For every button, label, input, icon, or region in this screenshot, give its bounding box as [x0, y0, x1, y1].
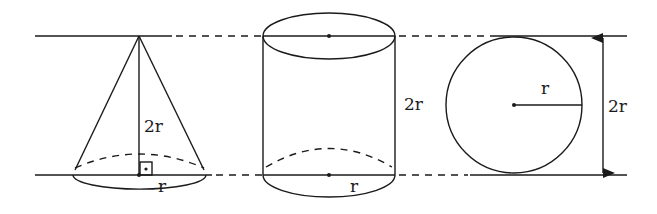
- cylinder-radius-label: r: [350, 176, 359, 196]
- sphere: r 2r: [446, 37, 628, 173]
- sphere-radius-label: r: [541, 78, 550, 98]
- sphere-diameter-label: 2r: [608, 96, 628, 116]
- cylinder: 2r r: [263, 13, 424, 197]
- cone-height-label: 2r: [144, 116, 164, 136]
- cone: 2r r: [73, 36, 206, 196]
- cylinder-height-label: 2r: [404, 94, 424, 114]
- cone-radius-label: r: [158, 176, 167, 196]
- solids-diagram: 2r r 2r r r 2r: [0, 0, 657, 214]
